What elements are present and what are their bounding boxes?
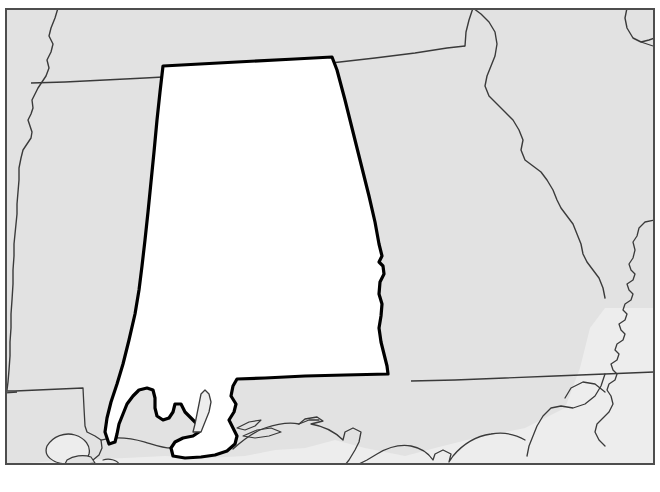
map-svg — [5, 8, 655, 465]
page-footer: 57 © Aquinas Learning LLC 20 — [0, 466, 660, 492]
page-canvas: 57 © Aquinas Learning LLC 20 — [0, 0, 660, 492]
map-figure — [5, 8, 655, 465]
